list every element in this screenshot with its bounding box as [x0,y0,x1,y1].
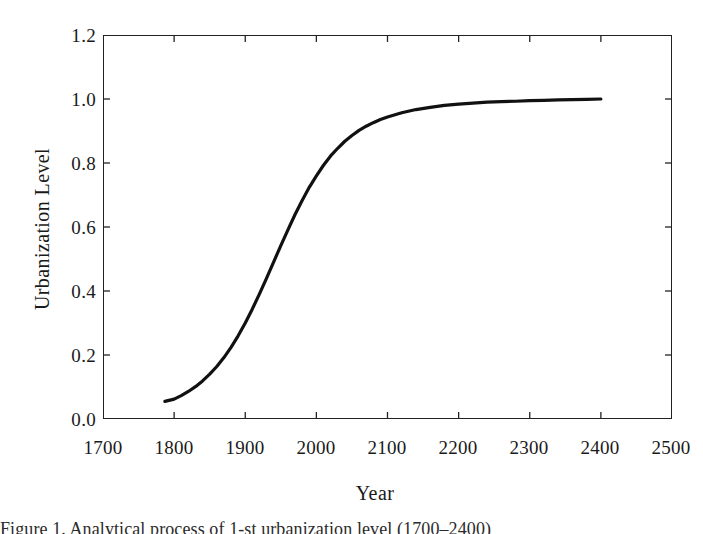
x-tick-label-1800: 1800 [134,437,214,459]
y-tick-label-1-0: 1.0 [50,90,96,109]
urbanization-figure: 1.2 1.0 0.8 0.6 0.4 0.2 0.0 1700 1800 19… [0,0,703,534]
y-tick-label-0-0: 0.0 [50,410,96,429]
y-tick-label-0-8: 0.8 [50,154,96,173]
y-tick-label-0-4: 0.4 [50,282,96,301]
x-tick-label-1700: 1700 [63,437,143,459]
x-axis-ticks [174,35,601,419]
y-tick-label-0-6: 0.6 [50,218,96,237]
y-axis-title: Urbanization Level [31,114,53,344]
plot-area [103,35,672,419]
urbanization-curve [165,99,601,401]
y-tick-label-0-2: 0.2 [50,346,96,365]
x-tick-label-1900: 1900 [205,437,285,459]
x-tick-label-2200: 2200 [418,437,498,459]
x-axis-tick-labels: 1700 1800 1900 2000 2100 2200 2300 2400 … [0,437,703,465]
y-tick-label-1-2: 1.2 [50,26,96,45]
x-tick-label-2300: 2300 [489,437,569,459]
figure-caption: Figure 1. Analytical process of 1-st urb… [0,519,703,534]
x-tick-label-2500: 2500 [631,437,703,459]
x-tick-label-2400: 2400 [560,437,640,459]
x-axis-title: Year [0,481,703,505]
x-tick-label-2100: 2100 [347,437,427,459]
y-axis-ticks [103,99,672,355]
x-tick-label-2000: 2000 [276,437,356,459]
